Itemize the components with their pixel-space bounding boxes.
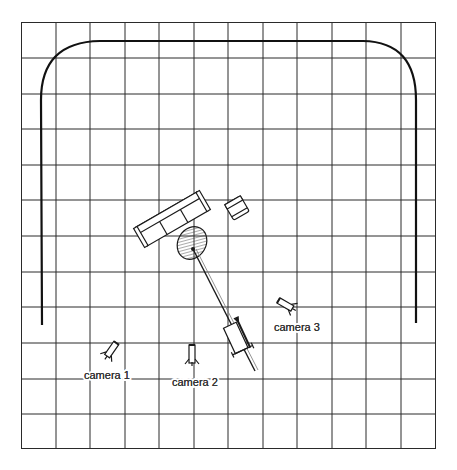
camera-3-label-fill: camera 3 [274,321,320,333]
floor-grid [21,22,436,449]
camera-2[interactable] [185,345,199,366]
studio-floor-plan: camera 1 camera 1 camera 2 camera 2 came… [0,0,457,470]
boom-microphone [191,247,258,371]
camera-1-label-fill: camera 1 [84,369,130,381]
camera-3[interactable] [275,294,299,316]
camera-2-icon [189,345,195,363]
camera-2-label-fill: camera 2 [172,376,218,388]
